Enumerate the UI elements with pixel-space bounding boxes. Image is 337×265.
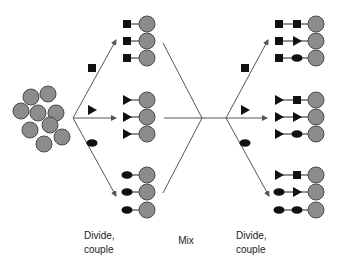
bead-icon <box>139 167 155 183</box>
bead-icon <box>30 105 46 121</box>
square-monomer-icon <box>275 54 283 62</box>
triangle-monomer-icon <box>293 112 302 122</box>
connector-line <box>163 43 202 118</box>
bead-icon <box>139 184 155 200</box>
bead-icon <box>308 50 324 66</box>
oval-monomer-icon <box>274 188 285 196</box>
bead-icon <box>23 89 39 105</box>
bead-icon <box>308 92 324 108</box>
square-monomer-icon <box>123 37 131 45</box>
bead-icon <box>139 16 155 32</box>
bead-icon <box>40 86 56 102</box>
bead-icon <box>13 103 29 119</box>
bead-icon <box>139 126 155 142</box>
bead-icon <box>308 126 324 142</box>
bead-icon <box>139 202 155 218</box>
square-monomer-icon <box>123 20 131 28</box>
split-and-mix-synthesis-diagram <box>0 0 337 265</box>
square-monomer-icon <box>123 54 131 62</box>
oval-monomer-icon <box>122 206 133 214</box>
triangle-monomer-icon <box>275 170 284 180</box>
oval-monomer-icon <box>274 206 285 214</box>
triangle-monomer-icon <box>88 105 97 115</box>
bead-icon <box>139 109 155 125</box>
square-monomer-icon <box>293 96 301 104</box>
split-fan-1 <box>73 40 116 196</box>
bead-icon <box>308 202 324 218</box>
bead-icon <box>139 33 155 49</box>
stage-3-line-2: couple <box>236 243 267 257</box>
square-monomer-icon <box>293 20 301 28</box>
square-monomer-icon <box>293 171 301 179</box>
split-2-products <box>274 16 325 218</box>
oval-monomer-icon <box>122 188 133 196</box>
square-monomer-icon <box>88 64 96 72</box>
bead-icon <box>42 117 58 133</box>
oval-monomer-icon <box>87 139 98 147</box>
mix-lines <box>163 43 226 193</box>
triangle-monomer-icon <box>123 112 132 122</box>
triangle-monomer-icon <box>293 36 302 46</box>
split-1-products <box>122 16 156 218</box>
triangle-monomer-icon <box>123 129 132 139</box>
oval-monomer-icon <box>292 206 303 214</box>
stage-1-line-1: Divide, <box>84 229 115 243</box>
triangle-monomer-icon <box>275 95 284 105</box>
split-fan-2 <box>226 40 269 196</box>
arrow <box>73 40 116 118</box>
bead-icon <box>308 109 324 125</box>
bead-icon <box>54 129 70 145</box>
oval-monomer-icon <box>292 130 303 138</box>
bead-icon <box>308 33 324 49</box>
bead-icon <box>308 184 324 200</box>
stage-1-line-2: couple <box>84 243 115 257</box>
arrow <box>226 118 269 196</box>
stage-label-divide-couple-1: Divide, couple <box>84 229 115 257</box>
triangle-monomer-icon <box>293 187 302 197</box>
oval-monomer-icon <box>122 171 133 179</box>
bead-icon <box>308 16 324 32</box>
stage-label-mix: Mix <box>172 234 200 248</box>
square-monomer-icon <box>241 64 249 72</box>
triangle-monomer-icon <box>241 105 250 115</box>
bead-icon <box>308 167 324 183</box>
bead-pool <box>13 86 70 152</box>
bead-icon <box>36 136 52 152</box>
arrow <box>73 118 116 196</box>
oval-monomer-icon <box>240 139 251 147</box>
bead-icon <box>139 92 155 108</box>
stage-label-divide-couple-2: Divide, couple <box>236 229 267 257</box>
square-monomer-icon <box>275 37 283 45</box>
oval-monomer-icon <box>292 54 303 62</box>
square-monomer-icon <box>275 20 283 28</box>
triangle-monomer-icon <box>123 95 132 105</box>
bead-icon <box>139 50 155 66</box>
triangle-monomer-icon <box>275 112 284 122</box>
connector-line <box>163 118 202 193</box>
stage-3-line-1: Divide, <box>236 229 267 243</box>
triangle-monomer-icon <box>275 129 284 139</box>
bead-icon <box>22 122 38 138</box>
stage-2-label: Mix <box>172 234 200 248</box>
arrow <box>226 40 268 118</box>
